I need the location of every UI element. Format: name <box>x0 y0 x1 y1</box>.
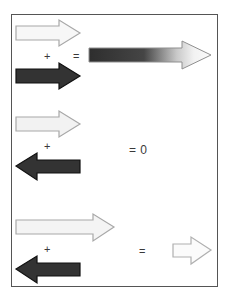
row3-operand2-dark-arrow-left <box>15 255 81 284</box>
row3-result-light-arrow-right-short <box>172 236 212 265</box>
vector-addition-diagram: + = + <box>0 0 230 308</box>
row1-operand1-light-arrow-right <box>15 19 81 47</box>
row1-plus-operator: + <box>44 51 51 62</box>
row3-operand1-light-arrow-right-long <box>15 213 115 242</box>
row3-equals-operator: = <box>139 246 146 257</box>
row2-plus-operator: + <box>44 141 51 152</box>
row2-equals-zero-result: = 0 <box>129 144 148 156</box>
row1-operand2-dark-arrow-right <box>15 62 81 90</box>
row1-equals-operator: = <box>73 51 80 62</box>
row2-operand2-dark-arrow-left <box>15 152 81 181</box>
row2-operand1-light-arrow-right <box>15 110 81 138</box>
row3-plus-operator: + <box>44 244 51 255</box>
row1-result-gradient-arrow-right <box>88 40 212 70</box>
